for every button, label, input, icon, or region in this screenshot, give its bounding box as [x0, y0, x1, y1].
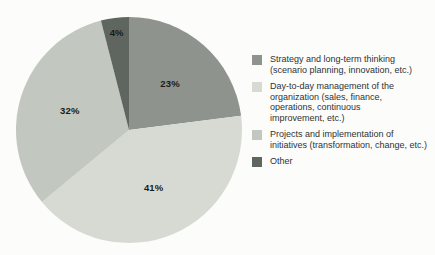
- legend: Strategy and long-term thinking (scenari…: [252, 54, 432, 173]
- legend-swatch-strategy: [252, 55, 262, 65]
- legend-swatch-projects: [252, 130, 262, 140]
- legend-label-line: improvement, etc.): [270, 113, 432, 124]
- legend-swatch-other: [252, 157, 262, 167]
- legend-label-projects: Projects and implementation of initiativ…: [270, 129, 432, 150]
- slice-value-label-strategy: 23%: [160, 78, 180, 89]
- slice-value-label-other: 4%: [110, 27, 124, 38]
- legend-label-line: Day-to-day management of the: [270, 81, 432, 92]
- pie-slice-strategy: [129, 17, 241, 130]
- legend-label-line: initiatives (transformation, change, etc…: [270, 140, 432, 151]
- slice-value-label-day-to-day: 41%: [144, 182, 164, 193]
- legend-label-line: (scenario planning, innovation, etc.): [270, 65, 432, 76]
- legend-item-projects: Projects and implementation of initiativ…: [252, 129, 432, 150]
- legend-label-line: Strategy and long-term thinking: [270, 54, 432, 65]
- legend-label-line: Other: [270, 156, 432, 167]
- legend-item-other: Other: [252, 156, 432, 167]
- legend-label-strategy: Strategy and long-term thinking (scenari…: [270, 54, 432, 75]
- slice-value-label-projects: 32%: [60, 105, 80, 116]
- legend-label-line: organization (sales, finance,: [270, 92, 432, 103]
- legend-item-strategy: Strategy and long-term thinking (scenari…: [252, 54, 432, 75]
- legend-swatch-day-to-day: [252, 82, 262, 92]
- legend-label-line: Projects and implementation of: [270, 129, 432, 140]
- legend-label-line: operations, continuous: [270, 102, 432, 113]
- legend-label-day-to-day: Day-to-day management of the organizatio…: [270, 81, 432, 123]
- legend-label-other: Other: [270, 156, 432, 167]
- legend-item-day-to-day: Day-to-day management of the organizatio…: [252, 81, 432, 123]
- pie-chart-figure: 23%41%32%4% Strategy and long-term think…: [0, 0, 435, 255]
